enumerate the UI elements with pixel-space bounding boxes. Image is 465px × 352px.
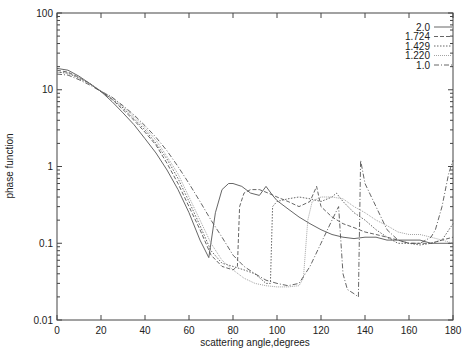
x-tick-label: 160 <box>401 325 418 336</box>
x-tick-label: 20 <box>95 325 107 336</box>
y-tick-label: 0.01 <box>34 315 54 326</box>
x-tick-label: 0 <box>54 325 60 336</box>
series-line-1_0 <box>57 74 453 297</box>
y-axis-label: phase function <box>4 133 15 198</box>
y-tick-label: 1 <box>47 161 53 172</box>
x-tick-label: 100 <box>269 325 286 336</box>
x-tick-label: 80 <box>227 325 239 336</box>
series-line-1_220 <box>57 72 453 287</box>
y-axis-ticks: 0.010.1110100 <box>34 8 453 326</box>
y-tick-label: 0.1 <box>39 238 53 249</box>
x-tick-label: 60 <box>183 325 195 336</box>
legend: 2.01.7241.4291.2201.0 <box>405 22 452 71</box>
y-tick-label: 10 <box>42 84 54 95</box>
x-tick-label: 40 <box>139 325 151 336</box>
x-tick-label: 180 <box>445 325 462 336</box>
x-tick-label: 140 <box>357 325 374 336</box>
phase-function-chart: 0.010.1110100 020406080100120140160180 2… <box>0 0 465 352</box>
x-tick-label: 120 <box>313 325 330 336</box>
x-axis-ticks: 020406080100120140160180 <box>54 13 462 336</box>
series-curves <box>57 68 453 297</box>
legend-label: 1.0 <box>416 60 430 71</box>
y-tick-label: 100 <box>36 8 53 19</box>
x-axis-label: scattering angle,degrees <box>200 337 310 348</box>
